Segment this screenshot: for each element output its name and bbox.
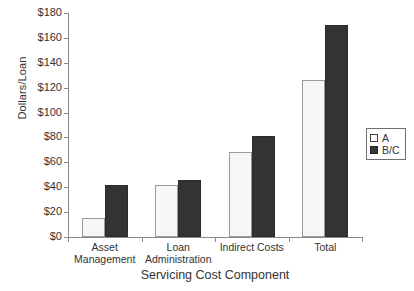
y-tick: [64, 113, 69, 114]
category-label: Total: [280, 242, 370, 254]
y-axis-line: [68, 13, 69, 237]
y-tick: [64, 88, 69, 89]
plot-area: [68, 13, 362, 237]
x-axis-title: Servicing Cost Component: [68, 268, 362, 282]
legend-item-bc: B/C: [370, 144, 402, 156]
bar-chart: Dollars/Loan $0$20$40$60$80$100$120$140$…: [0, 0, 414, 291]
legend-swatch-bc-icon: [370, 146, 378, 154]
y-tick-label: $180: [18, 6, 62, 18]
bar-a-2: [229, 152, 252, 237]
legend-swatch-a-icon: [370, 134, 378, 142]
y-tick: [64, 187, 69, 188]
legend-label-a: A: [382, 133, 389, 143]
y-tick: [64, 162, 69, 163]
legend: A B/C: [366, 128, 406, 160]
y-tick-label: $80: [18, 130, 62, 142]
y-tick-label: $120: [18, 81, 62, 93]
bar-bc-2: [252, 136, 275, 237]
y-tick-label: $100: [18, 106, 62, 118]
y-tick-label: $0: [18, 230, 62, 242]
y-tick-label: $60: [18, 155, 62, 167]
y-tick-label: $20: [18, 205, 62, 217]
y-tick: [64, 137, 69, 138]
y-tick: [64, 38, 69, 39]
y-tick-label: $160: [18, 31, 62, 43]
bar-a-0: [82, 218, 105, 237]
y-tick-label: $40: [18, 180, 62, 192]
y-tick: [64, 63, 69, 64]
legend-label-bc: B/C: [382, 145, 400, 155]
bar-bc-3: [325, 25, 348, 237]
bar-a-1: [155, 185, 178, 237]
y-tick: [64, 13, 69, 14]
bar-a-3: [302, 80, 325, 237]
y-tick: [64, 212, 69, 213]
bar-bc-1: [178, 180, 201, 237]
y-tick-label: $140: [18, 56, 62, 68]
legend-item-a: A: [370, 132, 402, 144]
bar-bc-0: [105, 185, 128, 237]
